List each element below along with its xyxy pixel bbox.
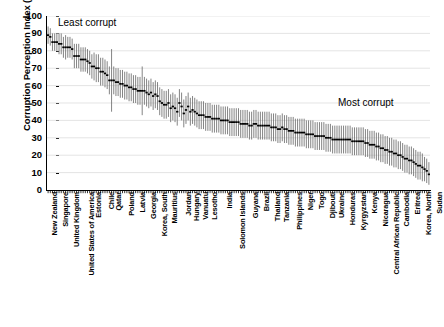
mean-marker [194,111,196,113]
mean-marker [314,135,316,137]
x-tick-label-text: Tanzania [283,192,290,222]
mean-marker [423,168,425,170]
x-tick-label-text: Mauritius [171,192,178,224]
mean-marker [71,48,73,50]
mean-marker [154,93,156,95]
mean-marker [399,154,401,156]
mean-marker [264,125,266,127]
mean-marker [303,132,305,134]
x-tick-label: Jordan [182,192,189,216]
mean-marker [283,128,285,130]
mean-marker [380,147,382,149]
mean-marker [62,46,64,48]
x-tick-label: Georgia [147,192,154,219]
mean-marker [134,88,136,90]
x-tick-label: Cambodia [400,192,407,227]
y-tick-label-40: 40 [12,116,42,126]
mean-marker [296,132,298,134]
mean-marker [325,137,327,139]
x-tick-label: Korea, South [158,192,165,236]
mean-marker [93,66,95,68]
mean-marker [84,59,86,61]
mean-marker [148,93,150,95]
mean-marker [141,90,143,92]
mean-marker [419,165,421,167]
mean-marker [178,102,180,104]
mean-marker [377,146,379,148]
y-tick-label-70: 70 [12,63,42,73]
mean-marker [180,106,182,108]
mean-marker [281,127,283,129]
mean-marker [69,46,71,48]
mean-marker [224,120,226,122]
x-tick-label: Kyrgyzstan [357,192,364,230]
annotation-most-corrupt: Most corrupt [338,97,394,108]
mean-marker [360,140,362,142]
x-tick-label-text: Nicaragua [381,192,388,226]
mean-marker [334,139,336,141]
mean-marker [408,160,410,162]
mean-marker [237,121,239,123]
x-axis-category-labels: New ZealandSingaporeUnited KingdomUnited… [47,192,430,327]
mean-marker [404,158,406,160]
mean-marker [73,55,75,57]
mean-marker [402,156,404,158]
mean-marker [253,123,255,125]
mean-marker [139,90,141,92]
mean-marker [270,127,272,129]
mean-marker [132,88,134,90]
x-tick-label: India [223,192,230,209]
mean-marker [272,127,274,129]
mean-marker [349,139,351,141]
x-tick-label-text: Poland [127,192,134,216]
mean-marker [51,41,53,43]
mean-marker [95,67,97,69]
y-tick-label-90: 90 [12,29,42,39]
x-tick-label-text: Singapore [62,192,69,227]
annotation-least-corrupt: Least corrupt [58,17,116,28]
mean-marker [397,154,399,156]
x-tick-label-text: Philippines [296,192,303,230]
mean-marker [189,111,191,113]
mean-marker [156,95,158,97]
mean-marker [213,118,215,120]
x-tick-label: Brazil [260,192,267,211]
mean-marker [172,106,174,108]
mean-marker [119,83,121,85]
mean-marker [60,43,62,45]
x-tick-label: Korea, North [422,192,429,235]
x-tick-label: Guyana [249,192,256,218]
mean-marker [255,123,257,125]
mean-marker [49,36,51,38]
x-tick-label-text: Brazil [263,192,270,211]
mean-marker [261,125,263,127]
mean-marker [275,127,277,129]
mean-marker [115,81,117,83]
mean-marker [220,120,222,122]
mean-marker [301,132,303,134]
mean-marker [353,140,355,142]
mean-marker [318,135,320,137]
mean-marker [259,125,261,127]
mean-marker [124,85,126,87]
y-tick-label-10: 10 [12,168,42,178]
x-tick-label-text: Central African Republic [392,192,399,274]
mean-marker [56,41,58,43]
x-tick-label: Thailand [271,192,278,221]
mean-marker [211,118,213,120]
mean-marker [233,121,235,123]
mean-marker [268,125,270,127]
x-tick-label-text: Cambodia [403,192,410,227]
mean-marker [104,73,106,75]
mean-marker [218,118,220,120]
mean-marker [102,71,104,73]
mean-marker [421,167,423,169]
mean-marker [310,133,312,135]
mean-marker [82,59,84,61]
mean-marker [117,81,119,83]
mean-marker [395,153,397,155]
mean-marker [202,114,204,116]
mean-marker [323,135,325,137]
x-tick-label: Solomon Islands [236,192,243,249]
